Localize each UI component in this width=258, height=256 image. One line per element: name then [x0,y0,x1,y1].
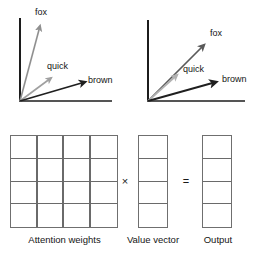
grid-cell [203,182,231,205]
value-vector-grid [138,135,168,228]
output-vector-grid [202,135,232,228]
vector-plot-before: fox quick brown [0,0,129,118]
grid-cell [203,136,231,159]
matrix-multiplication-panel: × = Attention weights Value vector Outpu… [0,118,258,256]
attention-weights-caption: Attention weights [0,234,129,245]
equals-symbol: = [178,176,194,187]
output-caption: Output [190,234,246,245]
value-vector-caption: Value vector [122,234,184,245]
grid-cell [139,159,167,182]
label-brown-after: brown [222,74,247,84]
grid-cell [139,182,167,205]
label-brown-before: brown [88,75,113,85]
grid-cell [38,182,65,205]
label-fox-before: fox [35,7,47,17]
arrow-fox-before [20,26,40,101]
arrow-brown-before [20,82,85,101]
multiply-symbol: × [117,176,133,187]
vector-plot-before-canvas [0,0,129,118]
grid-cell [38,136,65,159]
attention-weights-grid [10,135,118,228]
grid-cell [11,136,38,159]
grid-cell [203,204,231,227]
attention-figure: fox quick brown [0,0,258,256]
vector-plot-after: fox quick brown [129,0,258,118]
label-quick-before: quick [47,61,68,71]
grid-cell [11,182,38,205]
grid-cell [139,204,167,227]
label-fox-after: fox [210,28,222,38]
grid-cell [64,204,91,227]
grid-cell [91,204,118,227]
grid-cell [203,159,231,182]
grid-cell [64,136,91,159]
grid-cell [91,136,118,159]
grid-cell [91,182,118,205]
label-quick-after: quick [183,64,204,74]
grid-cell [64,159,91,182]
grid-cell [11,159,38,182]
grid-cell [38,159,65,182]
grid-cell [91,159,118,182]
grid-cell [139,136,167,159]
grid-cell [11,204,38,227]
vector-plot-after-canvas [129,0,258,118]
grid-cell [64,182,91,205]
grid-cell [38,204,65,227]
